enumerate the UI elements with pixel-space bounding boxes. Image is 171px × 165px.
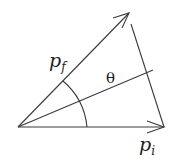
label-theta: θ	[106, 69, 115, 87]
vector-p-i	[18, 121, 164, 133]
difference-line	[131, 24, 164, 127]
angle-arc	[63, 81, 87, 127]
label-p-i: pi	[139, 133, 155, 158]
momentum-diagram: pf pi θ	[0, 0, 171, 165]
label-p-f: pf	[49, 49, 68, 74]
